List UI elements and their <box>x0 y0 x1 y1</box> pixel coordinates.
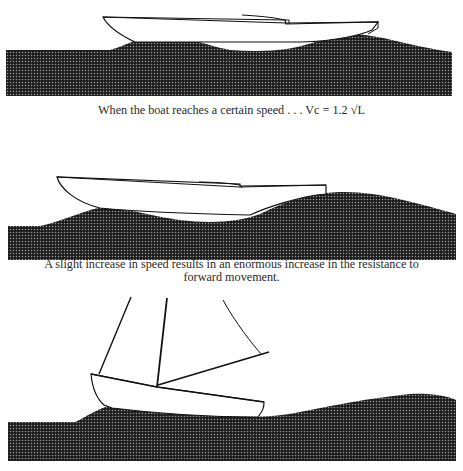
sail-leech <box>223 300 262 355</box>
caption-panel-1: When the boat reaches a certain speed . … <box>0 104 463 117</box>
boom <box>158 352 269 385</box>
sailboat-on-wave-illustration <box>0 280 463 471</box>
panel-boat-at-critical-speed <box>0 0 463 100</box>
mast <box>157 298 167 387</box>
boat-hull <box>103 17 378 42</box>
boat-at-critical-speed-illustration <box>0 0 463 100</box>
boat-climbing-wave-illustration <box>0 150 463 260</box>
panel-sailboat-on-wave <box>0 280 463 471</box>
water-wave <box>6 34 452 96</box>
panel-boat-climbing-wave <box>0 150 463 260</box>
forestay <box>99 297 131 374</box>
